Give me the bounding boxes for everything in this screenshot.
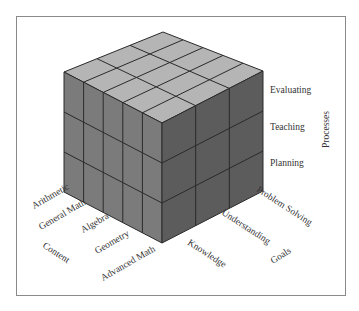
- process-label-evaluating: Evaluating: [270, 85, 311, 95]
- goal-label-problem-solving: Problem Solving: [255, 184, 314, 227]
- processes-axis-title: Processes: [321, 111, 331, 148]
- goal-label-knowledge: Knowledge: [186, 237, 228, 269]
- process-label-teaching: Teaching: [270, 122, 305, 132]
- content-label-algebra: Algebra: [79, 210, 111, 234]
- content-axis-title: Content: [41, 240, 72, 265]
- goals-axis-title: Goals: [269, 245, 293, 266]
- goal-label-understanding: Understanding: [220, 207, 273, 246]
- content-label-geometry: Geometry: [93, 228, 131, 256]
- content-goals-processes-cube: Evaluating Teaching Planning Processes A…: [0, 0, 359, 311]
- process-label-planning: Planning: [270, 158, 304, 168]
